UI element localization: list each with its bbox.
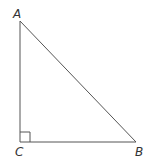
vertex-label-a: A	[12, 7, 21, 21]
vertex-label-b: B	[135, 145, 143, 159]
vertex-label-c: C	[15, 145, 24, 159]
triangle-diagram: A B C	[0, 0, 148, 165]
right-angle-marker	[20, 132, 30, 142]
triangle-abc	[20, 21, 136, 142]
